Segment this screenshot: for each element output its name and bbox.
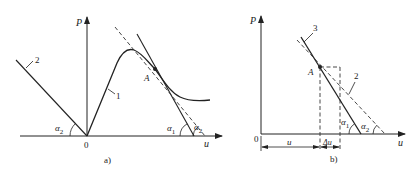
angle-dashed-b: α2 bbox=[361, 121, 370, 134]
leader-2-a bbox=[26, 61, 33, 68]
angle-arc-left-a bbox=[70, 124, 75, 136]
origin-label-a: 0 bbox=[84, 140, 89, 150]
point-a-a bbox=[153, 67, 157, 71]
label-2-a: 2 bbox=[35, 55, 40, 65]
figure-canvas: P u 0 a) 2 α2 1 A α1 α2 P u 0 bbox=[0, 0, 419, 175]
p-axis-label-a: P bbox=[75, 17, 82, 28]
tangent-line-a bbox=[137, 34, 194, 136]
angle-tangent-a: α1 bbox=[167, 123, 176, 136]
label-3-b: 3 bbox=[313, 23, 318, 33]
angle-arc-dashed-b bbox=[373, 125, 377, 134]
angle-left-a: α2 bbox=[55, 123, 64, 136]
dashed-line-a bbox=[115, 27, 205, 136]
point-a-b bbox=[318, 65, 322, 69]
origin-label-b: 0 bbox=[254, 134, 259, 144]
angle-arc-solid-b bbox=[349, 124, 355, 134]
label-1-a: 1 bbox=[116, 91, 121, 101]
angle-dashed-a: α2 bbox=[194, 122, 203, 135]
figure-a: P u 0 a) 2 α2 1 A α1 α2 bbox=[16, 17, 222, 165]
leader-1-a bbox=[108, 89, 115, 94]
dim-u-label-b: u bbox=[287, 137, 292, 147]
angle-arc-tangent-a bbox=[180, 124, 187, 136]
point-label-b: A bbox=[307, 67, 314, 77]
figure-b: P u 0 b) 3 2 A α1 α2 u Δu bbox=[249, 15, 405, 164]
label-2-b: 2 bbox=[354, 71, 359, 81]
line-2-a bbox=[16, 60, 87, 136]
u-axis-label-a: u bbox=[204, 138, 209, 149]
line-3-b bbox=[301, 37, 361, 134]
leader-3-b bbox=[304, 33, 313, 42]
u-axis-label-b: u bbox=[398, 137, 403, 148]
caption-a: a) bbox=[104, 155, 111, 165]
leader-2-b bbox=[349, 82, 355, 94]
point-label-a: A bbox=[143, 73, 150, 83]
dim-du-label-b: Δu bbox=[322, 138, 332, 147]
curve-1-a bbox=[87, 50, 210, 136]
p-axis-label-b: P bbox=[249, 15, 256, 26]
caption-b: b) bbox=[330, 154, 338, 164]
angle-solid-b: α1 bbox=[341, 117, 350, 130]
